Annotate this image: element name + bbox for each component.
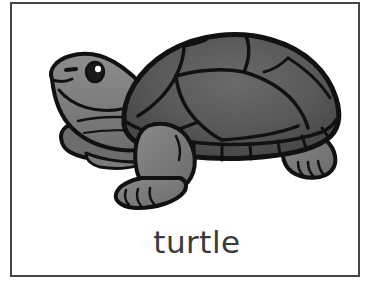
marginal-div-6 xyxy=(278,141,280,155)
turtle-svg xyxy=(26,10,368,215)
eye-highlight xyxy=(95,66,101,72)
eye xyxy=(86,62,104,82)
turtle-body-group xyxy=(51,35,339,208)
nostril xyxy=(66,69,76,70)
caption-label: turtle xyxy=(26,222,368,262)
flashcard-page: turtle xyxy=(0,0,372,289)
marginal-div-5 xyxy=(250,144,251,159)
card-frame: turtle xyxy=(10,2,360,277)
turtle-illustration xyxy=(26,10,368,215)
